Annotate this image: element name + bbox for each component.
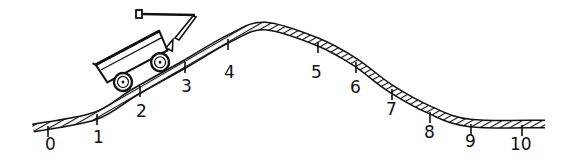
wagon-hill-diagram: 012345678910 [0,0,571,160]
marker-10: 10 [510,125,532,154]
marker-label: 8 [424,122,435,142]
marker-label: 6 [350,77,361,97]
marker-9: 9 [465,124,476,151]
marker-label: 1 [93,127,104,147]
marker-label: 5 [311,62,322,82]
marker-label: 0 [45,134,56,154]
diagram-canvas: 012345678910 [0,0,571,160]
marker-4: 4 [224,39,235,82]
marker-label: 9 [465,131,476,151]
wagon-handle [136,10,196,40]
marker-label: 2 [136,101,147,121]
marker-label: 7 [386,99,397,119]
marker-8: 8 [424,112,435,142]
marker-label: 4 [224,62,235,82]
marker-label: 10 [510,134,532,154]
marker-label: 3 [181,76,192,96]
marker-5: 5 [311,42,322,82]
